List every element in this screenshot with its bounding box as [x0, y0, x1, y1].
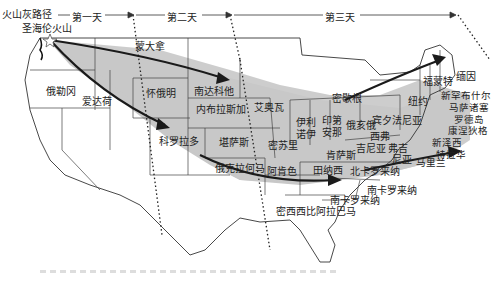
- label-illinois-2: 诺伊: [296, 129, 316, 140]
- label-massachusetts: 马萨诸塞: [449, 102, 489, 113]
- legend-day-3: 第三天: [323, 9, 357, 24]
- label-montana: 蒙大拿: [135, 41, 165, 52]
- label-connecticut: 康涅狄格: [448, 125, 488, 136]
- legend-day-1: 第一天: [70, 9, 104, 24]
- label-virginia-1: 弗吉: [388, 143, 408, 154]
- label-new-hampshire: 新罕布什尔: [441, 90, 491, 101]
- label-new-jersey: 新泽西: [432, 137, 462, 148]
- label-pennsylvania: 宾夕法尼亚: [372, 115, 422, 126]
- label-oklahoma: 俄克拉何马: [215, 163, 265, 174]
- label-kansas: 堪萨斯: [219, 137, 249, 148]
- label-west-virginia-1: 西弗: [370, 131, 390, 142]
- label-nebraska: 内布拉斯加: [196, 104, 246, 115]
- ash-path-map: [0, 0, 498, 281]
- legend-title: 火山灰路径: [2, 9, 52, 20]
- label-colorado: 科罗拉多: [159, 136, 199, 147]
- label-iowa: 艾奥瓦: [254, 102, 284, 113]
- label-new-york: 纽约: [408, 96, 428, 107]
- volcano-label: 圣海伦火山: [22, 23, 72, 34]
- figure-caption-cropped: [40, 270, 340, 273]
- label-vermont: 福蒙特: [423, 76, 453, 87]
- label-missouri: 密苏里: [268, 140, 298, 151]
- label-wyoming: 怀俄明: [146, 88, 176, 99]
- label-maine: 缅因: [456, 71, 476, 82]
- label-illinois-1: 伊利: [296, 117, 316, 128]
- legend-timeline: [58, 12, 456, 18]
- label-virginia-2: 尼亚: [392, 154, 412, 165]
- label-kentucky: 肯萨斯: [326, 150, 356, 161]
- label-georgia: 南卡罗来纳: [330, 195, 380, 206]
- label-west-virginia-2: 吉尼亚: [356, 143, 386, 154]
- label-maryland: 马里兰: [416, 157, 446, 168]
- label-oregon: 俄勒冈: [46, 86, 76, 97]
- label-michigan: 密歇根: [332, 93, 362, 104]
- label-mississippi-alabama: 密西西比阿拉巴马: [276, 206, 356, 217]
- label-idaho: 爱达荷: [82, 96, 112, 107]
- label-indiana-1: 印第: [322, 115, 342, 126]
- label-north-carolina: 北卡罗来纳: [350, 166, 400, 177]
- label-arkansas: 阿肯色: [267, 166, 297, 177]
- label-indiana-2: 安那: [322, 127, 342, 138]
- label-rhode-island: 罗德岛: [454, 114, 484, 125]
- legend-day-2: 第二天: [165, 9, 199, 24]
- label-tennessee: 田纳西: [313, 165, 343, 176]
- label-south-dakota: 南达科他: [194, 86, 234, 97]
